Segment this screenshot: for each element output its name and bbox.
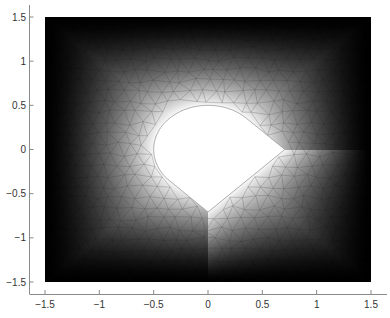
mesh-edge	[79, 79, 87, 93]
mesh-edge	[268, 259, 275, 272]
mesh-edge	[358, 273, 364, 282]
mesh-edge	[45, 112, 52, 123]
x-tick-label: −1.5	[35, 299, 55, 310]
mesh-edge	[96, 239, 101, 252]
mesh-edge	[143, 122, 156, 125]
mesh-edge	[233, 38, 239, 47]
mesh-edge	[326, 210, 331, 217]
mesh-edge	[318, 70, 334, 71]
mesh-edge	[87, 17, 91, 29]
mesh-edge	[311, 177, 317, 186]
mesh-edge	[269, 29, 273, 40]
mesh-edge	[74, 230, 76, 237]
mesh-edge	[145, 273, 150, 282]
mesh-edge	[269, 175, 282, 177]
mesh-edge	[77, 144, 93, 147]
y-tick-label: 0.5	[12, 100, 26, 111]
mesh-edge	[334, 48, 342, 49]
mesh-edge	[284, 187, 299, 188]
mesh-edge	[86, 229, 92, 240]
mesh-edge	[180, 47, 187, 60]
mesh-edge	[363, 218, 371, 228]
mesh-edge	[224, 271, 235, 272]
mesh-edge	[293, 104, 297, 111]
mesh-edge	[85, 251, 92, 258]
mesh-edge	[130, 239, 138, 251]
mesh-edge	[341, 72, 343, 82]
mesh-edge	[154, 58, 165, 73]
mesh-edge	[260, 17, 269, 29]
mesh-edge	[103, 270, 119, 271]
mesh-edge	[269, 115, 271, 125]
mesh-edge	[224, 271, 228, 283]
mesh-edge	[52, 102, 64, 103]
mesh-edge	[155, 270, 170, 273]
mesh-edge	[331, 112, 340, 122]
mesh-edge	[326, 61, 334, 71]
mesh-edge	[93, 199, 98, 206]
mesh-edge	[45, 91, 52, 102]
mesh-edge	[217, 91, 225, 92]
mesh-edge	[97, 270, 103, 282]
mesh-edge	[329, 195, 347, 198]
mesh-edge	[145, 208, 157, 209]
mesh-edge	[107, 38, 117, 48]
mesh-edge	[309, 210, 311, 217]
mesh-edge	[164, 209, 168, 217]
mesh-edge	[110, 208, 117, 219]
mesh-edge	[333, 153, 347, 154]
mesh-edge	[150, 197, 157, 209]
mesh-edge	[310, 230, 320, 239]
mesh-edge	[301, 81, 315, 83]
mesh-edge	[341, 104, 343, 113]
mesh-edge	[333, 248, 336, 262]
mesh-edge	[362, 58, 371, 70]
mesh-edge	[113, 28, 123, 30]
mesh-edge	[129, 83, 139, 91]
mesh-edge	[73, 177, 87, 178]
mesh-edge	[101, 251, 110, 261]
mesh-edge	[97, 262, 103, 270]
mesh-edge	[273, 166, 286, 167]
mesh-edge	[134, 50, 146, 62]
mesh-edge	[98, 176, 108, 177]
mesh-edge	[260, 178, 268, 188]
mesh-edge	[67, 156, 71, 164]
mesh-edge	[124, 59, 131, 72]
mesh-edge	[336, 273, 345, 283]
mesh-edge	[367, 28, 371, 36]
mesh-edge	[284, 27, 292, 40]
mesh-edge	[84, 219, 91, 230]
mesh-edge	[124, 157, 130, 167]
mesh-edge	[340, 122, 345, 132]
mesh-edge	[144, 164, 151, 177]
mesh-edge	[148, 239, 157, 251]
mesh-edge	[341, 82, 343, 91]
mesh-edge	[135, 197, 150, 199]
mesh-edge	[356, 259, 371, 261]
mesh-edge	[87, 176, 98, 177]
mesh-edge	[156, 112, 163, 125]
mesh-edge	[284, 261, 290, 272]
mesh-edge	[206, 231, 216, 238]
mesh-edge	[312, 111, 317, 122]
mesh-edge	[59, 69, 66, 80]
mesh-edge	[266, 90, 279, 91]
mesh-edge	[359, 166, 364, 174]
mesh-edge	[157, 198, 164, 208]
mesh-edge	[193, 218, 203, 231]
mesh-edge	[145, 209, 148, 217]
mesh-edge	[345, 131, 358, 133]
mesh-edge	[66, 113, 72, 125]
mesh-edge	[76, 219, 84, 231]
mesh-edge	[330, 28, 336, 36]
mesh-edge	[122, 197, 135, 199]
mesh-edge	[178, 248, 182, 260]
mesh-edge	[70, 248, 80, 261]
mesh-edge	[356, 17, 365, 26]
mesh-edge	[77, 93, 87, 104]
mesh-edge	[358, 156, 363, 166]
mesh-edge	[275, 58, 288, 60]
mesh-edge	[56, 37, 63, 49]
mesh-edge	[130, 144, 141, 146]
